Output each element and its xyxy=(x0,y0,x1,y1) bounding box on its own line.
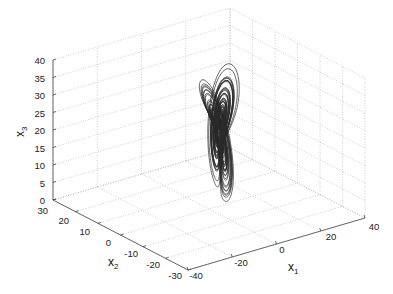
svg-text:30: 30 xyxy=(37,205,48,216)
svg-text:25: 25 xyxy=(34,108,45,119)
svg-text:20: 20 xyxy=(58,215,69,226)
svg-text:-30: -30 xyxy=(168,270,182,281)
svg-text:-10: -10 xyxy=(124,248,138,259)
x3-axis-label: x3 xyxy=(13,126,29,137)
x2-axis-label: x2 xyxy=(108,255,119,271)
svg-text:10: 10 xyxy=(79,226,90,237)
attractor-trajectory xyxy=(199,64,239,202)
svg-text:-40: -40 xyxy=(189,270,203,281)
svg-text:0: 0 xyxy=(279,244,284,255)
x3-tick-labels: 40 35 30 25 20 15 10 5 0 xyxy=(34,55,45,206)
svg-text:20: 20 xyxy=(34,125,45,136)
svg-text:35: 35 xyxy=(34,73,45,84)
svg-text:15: 15 xyxy=(34,143,45,154)
svg-text:10: 10 xyxy=(34,160,45,171)
svg-text:5: 5 xyxy=(40,178,45,189)
x1-axis-label: x1 xyxy=(288,260,299,276)
svg-text:0: 0 xyxy=(106,237,111,248)
lorenz-attractor-3d-plot: 40 35 30 25 20 15 10 5 0 30 20 10 0 -10 … xyxy=(0,0,393,294)
svg-text:-20: -20 xyxy=(234,257,248,268)
svg-text:20: 20 xyxy=(326,231,337,242)
svg-text:40: 40 xyxy=(369,221,380,232)
x2-tick-labels: 30 20 10 0 -10 -20 -30 xyxy=(37,205,182,281)
svg-text:-20: -20 xyxy=(146,259,160,270)
svg-text:30: 30 xyxy=(34,90,45,101)
svg-text:40: 40 xyxy=(34,55,45,66)
x1-tick-labels: -40 -20 0 20 40 xyxy=(189,221,379,281)
